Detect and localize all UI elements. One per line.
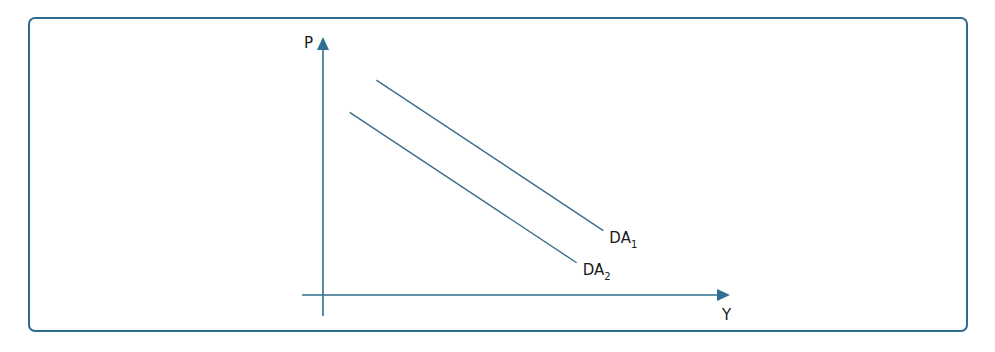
- demand-shift-diagram: P Y DA1DA2: [0, 0, 995, 352]
- demand-curve-label-da2: DA2: [583, 261, 611, 282]
- price-axis-label: P: [304, 34, 313, 52]
- output-axis-arrow-icon: [717, 289, 730, 301]
- curve-label-subscript: 2: [604, 271, 610, 282]
- output-axis-label: Y: [721, 306, 732, 324]
- demand-curves: DA1DA2: [350, 80, 638, 282]
- curve-label-subscript: 1: [631, 239, 637, 250]
- curve-label-main: DA: [583, 261, 605, 279]
- demand-curve-da2: [350, 112, 577, 262]
- demand-curve-label-da1: DA1: [609, 229, 637, 250]
- curve-label-main: DA: [609, 229, 631, 247]
- price-axis-arrow-icon: [317, 37, 329, 50]
- demand-curve-da1: [376, 80, 603, 230]
